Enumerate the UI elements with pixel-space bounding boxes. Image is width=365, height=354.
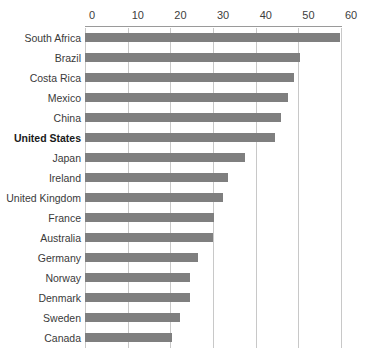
bar-united-states <box>85 133 275 142</box>
bar-costa-rica <box>85 73 294 82</box>
bar-chart: 0102030405060 South AfricaBrazilCosta Ri… <box>0 0 365 354</box>
x-axis-tick-60: 60 <box>345 8 357 22</box>
bar-united-kingdom <box>85 193 223 202</box>
bar-canada <box>85 333 172 342</box>
bar-brazil <box>85 53 300 62</box>
bar-row <box>85 48 365 68</box>
x-axis-tick-0: 0 <box>89 8 95 22</box>
bar-sweden <box>85 313 180 322</box>
bar-row <box>85 108 365 128</box>
bar-norway <box>85 273 190 282</box>
x-axis-tick-labels: 0102030405060 <box>85 8 341 26</box>
x-axis-tick-40: 40 <box>260 8 272 22</box>
bar-row <box>85 168 365 188</box>
bar-row <box>85 308 365 328</box>
bar-germany <box>85 253 198 262</box>
bar-row <box>85 128 365 148</box>
bar-row <box>85 208 365 228</box>
x-axis-tick-30: 30 <box>217 8 229 22</box>
bar-south-africa <box>85 33 340 42</box>
bar-australia <box>85 233 213 242</box>
bar-row <box>85 188 365 208</box>
bar-china <box>85 113 281 122</box>
bar-row <box>85 148 365 168</box>
x-axis-tick-50: 50 <box>302 8 314 22</box>
bar-denmark <box>85 293 190 302</box>
bar-japan <box>85 153 245 162</box>
x-axis-tick-10: 10 <box>132 8 144 22</box>
bars-layer <box>0 28 365 348</box>
bar-row <box>85 328 365 348</box>
bar-row <box>85 288 365 308</box>
bar-mexico <box>85 93 288 102</box>
bar-row <box>85 28 365 48</box>
bar-row <box>85 88 365 108</box>
bar-ireland <box>85 173 228 182</box>
x-axis-baseline <box>85 26 342 27</box>
x-axis-tick-20: 20 <box>174 8 186 22</box>
bar-france <box>85 213 214 222</box>
bar-row <box>85 228 365 248</box>
bar-row <box>85 68 365 88</box>
bar-row <box>85 268 365 288</box>
bar-row <box>85 248 365 268</box>
